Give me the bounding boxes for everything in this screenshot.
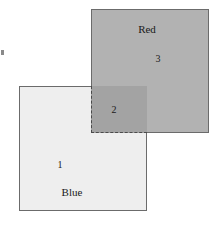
region-intersection: [91, 86, 147, 133]
venn-diagram-figure: Red 3 2 1 Blue: [0, 0, 218, 228]
edge-artifact-mark: [1, 50, 4, 55]
label-blue-set-name: Blue: [62, 187, 83, 198]
label-region-2-number: 2: [112, 105, 117, 115]
label-region-1-number: 1: [58, 160, 63, 170]
label-region-3-number: 3: [156, 54, 161, 64]
label-red-set-name: Red: [138, 24, 156, 35]
